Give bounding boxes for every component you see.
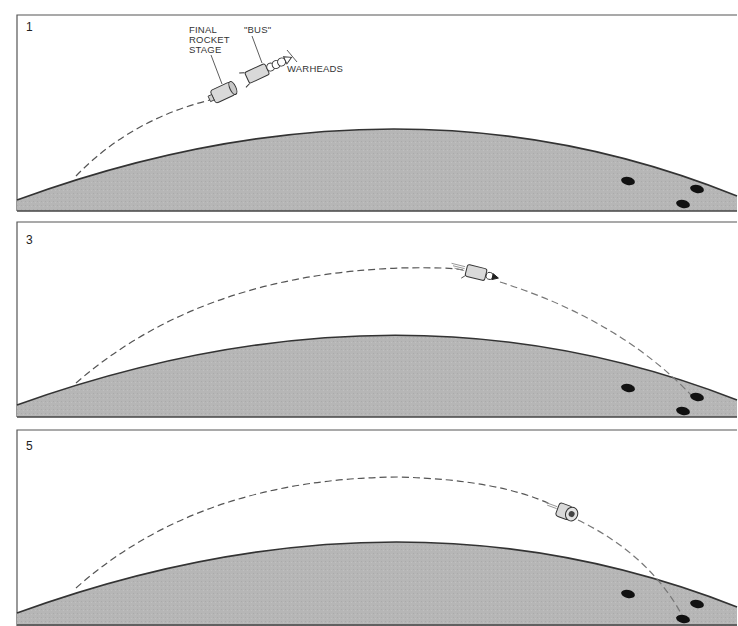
label-final-rocket-stage: FINAL ROCKET STAGE [189,24,230,84]
earth-surface [17,129,737,211]
final-rocket-stage-icon [206,80,238,105]
mirv-diagram: 1 FINAL ROCKET STAGE [0,0,738,626]
svg-text:"BUS": "BUS" [244,24,271,35]
bus-maneuvering-icon [449,260,500,286]
reentry-vehicle-icon [543,498,580,523]
earth-surface [17,335,737,417]
panel-1-number: 1 [26,20,33,34]
panel-5-number: 5 [26,439,33,453]
panel-5: 5 [17,430,737,626]
panel-3: 3 [17,222,737,417]
svg-text:STAGE: STAGE [189,44,222,55]
label-bus: "BUS" [244,24,271,63]
panel-1: 1 FINAL ROCKET STAGE [17,15,737,211]
label-warheads: WARHEADS [287,50,343,74]
earth-surface [17,542,737,626]
svg-text:WARHEADS: WARHEADS [287,63,343,74]
panel-3-number: 3 [26,233,33,247]
